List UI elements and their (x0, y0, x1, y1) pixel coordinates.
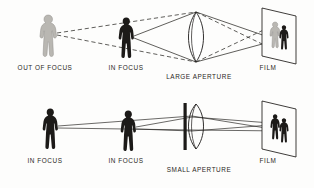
film-plane-large (262, 8, 296, 64)
film-surface-small (262, 101, 296, 157)
rays-near-subject (58, 116, 284, 131)
ray-in-upper (134, 12, 196, 36)
panel-large-aperture: OUT OF FOCUS IN FOCUS LARGE APERTURE FIL… (18, 8, 296, 80)
label-film-small: FILM (260, 157, 277, 164)
large-aperture-lens (189, 12, 204, 62)
ray-in-lower (134, 38, 196, 62)
label-out-of-focus: OUT OF FOCUS (18, 64, 73, 71)
label-in-focus-far: IN FOCUS (109, 157, 144, 164)
label-large-aperture: LARGE APERTURE (166, 73, 231, 80)
subject-in-focus-near (43, 108, 58, 149)
rays-out-of-focus (57, 12, 291, 62)
label-film-large: FILM (260, 64, 277, 71)
label-small-aperture: SMALL APERTURE (167, 166, 232, 173)
small-aperture-lens (189, 104, 204, 149)
diagram-canvas: OUT OF FOCUS IN FOCUS LARGE APERTURE FIL… (0, 0, 314, 188)
aperture-diaphragm (184, 103, 187, 150)
aperture-depth-of-field-diagram: OUT OF FOCUS IN FOCUS LARGE APERTURE FIL… (0, 0, 314, 188)
diaphragm-blade (184, 103, 187, 150)
film-plane-small (262, 101, 296, 157)
person-sharp-icon-far (121, 110, 136, 151)
person-sharp-icon-near (43, 108, 58, 149)
label-in-focus-near: IN FOCUS (28, 157, 63, 164)
subject-out-of-focus (40, 15, 57, 57)
person-blurred-icon (40, 15, 57, 57)
panel-small-aperture: IN FOCUS IN FOCUS SMALL APERTURE FILM (28, 101, 296, 173)
lens-body (189, 12, 204, 62)
subject-in-focus-far (121, 110, 136, 151)
label-in-focus: IN FOCUS (109, 64, 144, 71)
lens-body-small (189, 104, 204, 149)
